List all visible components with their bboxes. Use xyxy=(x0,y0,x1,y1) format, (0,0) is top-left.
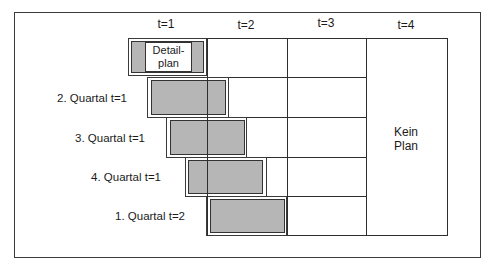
column-header-t2: t=2 xyxy=(226,18,266,32)
column-header-t4: t=4 xyxy=(386,18,426,32)
no-plan-label: Kein Plan xyxy=(366,125,446,153)
grid-right-line xyxy=(447,38,448,236)
no-plan-line2: Plan xyxy=(366,139,446,153)
row-label-q2-t1: 2. Quartal t=1 xyxy=(0,91,127,105)
detail-plan-line2: plan xyxy=(158,57,179,70)
grid-top-line xyxy=(206,38,448,39)
row5-plan-bar xyxy=(210,199,285,233)
row2-plan-bar xyxy=(151,80,226,115)
row4-plan-bar xyxy=(188,160,263,194)
column-header-t3: t=3 xyxy=(306,16,346,30)
row-label-q4-t1: 4. Quartal t=1 xyxy=(11,170,161,184)
grid-line-t2-t3 xyxy=(287,38,288,236)
row-label-q1-t2: 1. Quartal t=2 xyxy=(35,209,185,223)
column-header-t1: t=1 xyxy=(146,17,186,31)
row-label-q3-t1: 3. Quartal t=1 xyxy=(0,131,145,145)
detail-plan-line1: Detail- xyxy=(153,44,185,57)
grid-line-t1-t2 xyxy=(207,38,208,236)
no-plan-line1: Kein xyxy=(366,125,446,139)
detail-plan-box: Detail- plan xyxy=(145,42,192,72)
grid-row-line-1 xyxy=(206,77,367,78)
